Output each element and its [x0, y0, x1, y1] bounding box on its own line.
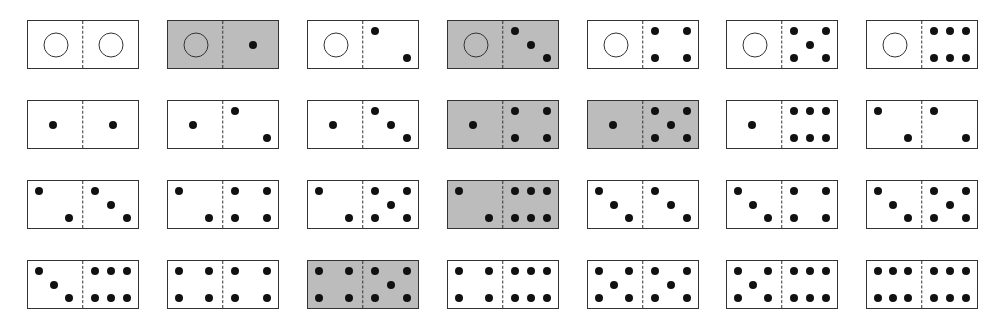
pip-icon: [205, 294, 213, 302]
domino-2-2[interactable]: 2|2: [866, 100, 978, 149]
pip-icon: [50, 281, 58, 289]
pip-icon: [946, 54, 954, 62]
domino-5-6[interactable]: 5|6: [726, 260, 838, 309]
domino-0-1[interactable]: 0|1: [167, 20, 279, 69]
domino-3-4[interactable]: 3|4: [726, 180, 838, 229]
pip-icon: [403, 54, 411, 62]
pip-icon: [371, 294, 379, 302]
left-half-0: [168, 21, 223, 68]
pip-icon: [651, 187, 659, 195]
domino-2-3[interactable]: 2|3: [27, 180, 139, 229]
pip-icon: [625, 294, 633, 302]
domino-1-4[interactable]: 1|4: [447, 100, 559, 149]
pip-icon: [263, 214, 271, 222]
pip-icon: [749, 281, 757, 289]
pip-icon: [946, 294, 954, 302]
pip-icon: [469, 121, 477, 129]
pip-icon: [387, 281, 395, 289]
domino-4-5[interactable]: 4|5: [307, 260, 419, 309]
blank-circle-icon: [43, 32, 68, 57]
pip-icon: [930, 27, 938, 35]
blank-circle-icon: [742, 32, 767, 57]
domino-1-2[interactable]: 1|2: [167, 100, 279, 149]
left-half-6: [867, 261, 922, 308]
domino-5-5[interactable]: 5|5: [587, 260, 699, 309]
right-half-6: [922, 21, 977, 68]
left-half-0: [867, 21, 922, 68]
pip-icon: [822, 294, 830, 302]
pip-icon: [946, 201, 954, 209]
pip-icon: [683, 27, 691, 35]
right-half-1: [83, 101, 138, 148]
pip-icon: [263, 134, 271, 142]
pip-icon: [315, 294, 323, 302]
left-half-2: [448, 181, 503, 228]
pip-icon: [889, 294, 897, 302]
pip-icon: [123, 267, 131, 275]
pip-icon: [543, 187, 551, 195]
domino-2-6[interactable]: 2|6: [447, 180, 559, 229]
pip-icon: [651, 294, 659, 302]
pip-icon: [764, 267, 772, 275]
pip-icon: [455, 267, 463, 275]
pip-icon: [610, 201, 618, 209]
pip-icon: [263, 187, 271, 195]
pip-icon: [511, 107, 519, 115]
pip-icon: [189, 121, 197, 129]
pip-icon: [403, 267, 411, 275]
pip-icon: [822, 27, 830, 35]
domino-3-6[interactable]: 3|6: [27, 260, 139, 309]
pip-icon: [231, 294, 239, 302]
domino-3-3[interactable]: 3|3: [587, 180, 699, 229]
pip-icon: [790, 214, 798, 222]
domino-2-5[interactable]: 2|5: [307, 180, 419, 229]
left-half-0: [308, 21, 363, 68]
domino-4-4[interactable]: 4|4: [167, 260, 279, 309]
pip-icon: [175, 187, 183, 195]
domino-0-5[interactable]: 0|5: [726, 20, 838, 69]
right-half-4: [782, 181, 837, 228]
right-half-1: [223, 21, 278, 68]
pip-icon: [749, 201, 757, 209]
domino-4-6[interactable]: 4|6: [447, 260, 559, 309]
pip-icon: [806, 41, 814, 49]
pip-icon: [874, 294, 882, 302]
right-half-2: [922, 101, 977, 148]
pip-icon: [930, 214, 938, 222]
domino-0-2[interactable]: 0|2: [307, 20, 419, 69]
left-half-0: [28, 21, 83, 68]
right-half-2: [223, 101, 278, 148]
pip-icon: [904, 294, 912, 302]
domino-1-1[interactable]: 1|1: [27, 100, 139, 149]
left-half-2: [867, 101, 922, 148]
pip-icon: [764, 214, 772, 222]
blank-circle-icon: [98, 32, 123, 57]
domino-0-6[interactable]: 0|6: [866, 20, 978, 69]
pip-icon: [683, 267, 691, 275]
pip-icon: [511, 27, 519, 35]
pip-icon: [764, 294, 772, 302]
domino-0-3[interactable]: 0|3: [447, 20, 559, 69]
domino-6-6[interactable]: 6|6: [866, 260, 978, 309]
right-half-5: [643, 261, 698, 308]
pip-icon: [651, 134, 659, 142]
domino-1-5[interactable]: 1|5: [587, 100, 699, 149]
pip-icon: [511, 294, 519, 302]
domino-0-4[interactable]: 0|4: [587, 20, 699, 69]
pip-icon: [625, 214, 633, 222]
domino-1-6[interactable]: 1|6: [726, 100, 838, 149]
domino-2-4[interactable]: 2|4: [167, 180, 279, 229]
pip-icon: [595, 294, 603, 302]
pip-icon: [527, 214, 535, 222]
left-half-2: [28, 181, 83, 228]
domino-3-5[interactable]: 3|5: [866, 180, 978, 229]
pip-icon: [734, 294, 742, 302]
pip-icon: [683, 134, 691, 142]
domino-1-3[interactable]: 1|3: [307, 100, 419, 149]
pip-icon: [371, 27, 379, 35]
pip-icon: [962, 187, 970, 195]
right-half-3: [363, 101, 418, 148]
pip-icon: [345, 214, 353, 222]
domino-0-0[interactable]: 0|0: [27, 20, 139, 69]
pip-icon: [231, 107, 239, 115]
